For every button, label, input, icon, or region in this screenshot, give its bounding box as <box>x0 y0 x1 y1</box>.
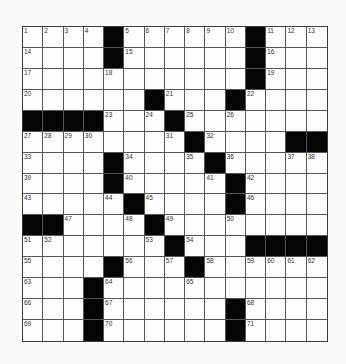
grid-cell[interactable] <box>286 90 306 111</box>
grid-cell[interactable] <box>266 90 286 111</box>
grid-cell[interactable] <box>165 48 185 69</box>
grid-cell[interactable] <box>145 257 165 278</box>
grid-cell[interactable]: 57 <box>165 257 185 278</box>
grid-cell[interactable] <box>43 299 63 320</box>
grid-cell[interactable]: 43 <box>23 194 43 215</box>
grid-cell[interactable] <box>84 48 104 69</box>
grid-cell[interactable] <box>145 174 165 195</box>
grid-cell[interactable] <box>185 215 205 236</box>
grid-cell[interactable]: 7 <box>165 27 185 48</box>
grid-cell[interactable] <box>205 194 225 215</box>
grid-cell[interactable] <box>266 215 286 236</box>
grid-cell[interactable]: 20 <box>23 90 43 111</box>
grid-cell[interactable] <box>43 278 63 299</box>
grid-cell[interactable] <box>64 299 84 320</box>
grid-cell[interactable] <box>185 69 205 90</box>
grid-cell[interactable]: 13 <box>307 27 327 48</box>
grid-cell[interactable] <box>64 174 84 195</box>
grid-cell[interactable] <box>43 257 63 278</box>
grid-cell[interactable] <box>124 111 144 132</box>
grid-cell[interactable]: 67 <box>104 299 124 320</box>
grid-cell[interactable] <box>307 111 327 132</box>
grid-cell[interactable]: 11 <box>266 27 286 48</box>
grid-cell[interactable] <box>226 257 246 278</box>
grid-cell[interactable] <box>226 132 246 153</box>
grid-cell[interactable] <box>64 278 84 299</box>
grid-cell[interactable]: 1 <box>23 27 43 48</box>
grid-cell[interactable] <box>205 215 225 236</box>
grid-cell[interactable] <box>286 320 306 341</box>
grid-cell[interactable] <box>307 174 327 195</box>
grid-cell[interactable] <box>64 48 84 69</box>
grid-cell[interactable] <box>104 132 124 153</box>
grid-cell[interactable]: 49 <box>165 215 185 236</box>
grid-cell[interactable] <box>246 215 266 236</box>
grid-cell[interactable] <box>205 48 225 69</box>
grid-cell[interactable]: 45 <box>145 194 165 215</box>
grid-cell[interactable]: 18 <box>104 69 124 90</box>
grid-cell[interactable]: 6 <box>145 27 165 48</box>
grid-cell[interactable] <box>205 299 225 320</box>
grid-cell[interactable]: 19 <box>266 69 286 90</box>
grid-cell[interactable] <box>165 320 185 341</box>
grid-cell[interactable] <box>104 215 124 236</box>
grid-cell[interactable] <box>266 320 286 341</box>
grid-cell[interactable] <box>64 69 84 90</box>
grid-cell[interactable] <box>286 111 306 132</box>
grid-cell[interactable]: 34 <box>124 153 144 174</box>
grid-cell[interactable]: 8 <box>185 27 205 48</box>
grid-cell[interactable] <box>185 48 205 69</box>
grid-cell[interactable] <box>43 90 63 111</box>
grid-cell[interactable]: 55 <box>23 257 43 278</box>
grid-cell[interactable] <box>104 236 124 257</box>
grid-cell[interactable] <box>307 299 327 320</box>
grid-cell[interactable] <box>307 278 327 299</box>
grid-cell[interactable] <box>145 299 165 320</box>
grid-cell[interactable] <box>145 132 165 153</box>
grid-cell[interactable] <box>307 48 327 69</box>
grid-cell[interactable]: 53 <box>145 236 165 257</box>
grid-cell[interactable] <box>43 48 63 69</box>
grid-cell[interactable]: 27 <box>23 132 43 153</box>
grid-cell[interactable]: 46 <box>246 194 266 215</box>
grid-cell[interactable] <box>84 257 104 278</box>
grid-cell[interactable] <box>64 320 84 341</box>
grid-cell[interactable]: 52 <box>43 236 63 257</box>
grid-cell[interactable] <box>84 153 104 174</box>
grid-cell[interactable] <box>286 174 306 195</box>
grid-cell[interactable]: 70 <box>104 320 124 341</box>
grid-cell[interactable]: 10 <box>226 27 246 48</box>
grid-cell[interactable]: 41 <box>205 174 225 195</box>
grid-cell[interactable] <box>124 69 144 90</box>
grid-cell[interactable] <box>246 278 266 299</box>
grid-cell[interactable]: 63 <box>23 278 43 299</box>
grid-cell[interactable]: 54 <box>185 236 205 257</box>
grid-cell[interactable]: 38 <box>307 153 327 174</box>
grid-cell[interactable] <box>145 69 165 90</box>
grid-cell[interactable] <box>165 278 185 299</box>
grid-cell[interactable] <box>43 174 63 195</box>
grid-cell[interactable] <box>165 69 185 90</box>
grid-cell[interactable] <box>165 153 185 174</box>
grid-cell[interactable] <box>185 90 205 111</box>
grid-cell[interactable]: 65 <box>185 278 205 299</box>
grid-cell[interactable]: 5 <box>124 27 144 48</box>
grid-cell[interactable] <box>84 215 104 236</box>
grid-cell[interactable] <box>226 278 246 299</box>
grid-cell[interactable]: 29 <box>64 132 84 153</box>
grid-cell[interactable] <box>43 69 63 90</box>
grid-cell[interactable]: 50 <box>226 215 246 236</box>
grid-cell[interactable] <box>226 69 246 90</box>
grid-cell[interactable]: 69 <box>23 320 43 341</box>
grid-cell[interactable]: 59 <box>246 257 266 278</box>
grid-cell[interactable]: 68 <box>246 299 266 320</box>
grid-cell[interactable] <box>205 90 225 111</box>
grid-cell[interactable] <box>185 299 205 320</box>
grid-cell[interactable]: 28 <box>43 132 63 153</box>
grid-cell[interactable] <box>307 215 327 236</box>
grid-cell[interactable]: 36 <box>226 153 246 174</box>
grid-cell[interactable] <box>266 174 286 195</box>
grid-cell[interactable] <box>84 236 104 257</box>
grid-cell[interactable]: 33 <box>23 153 43 174</box>
grid-cell[interactable]: 9 <box>205 27 225 48</box>
